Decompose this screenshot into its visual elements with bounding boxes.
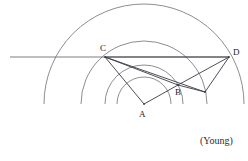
concentric-arc-group bbox=[44, 4, 244, 104]
ray-segment-group bbox=[105, 57, 229, 104]
ray-segment-b-d bbox=[178, 57, 229, 85]
ray-segment-a-b bbox=[144, 85, 178, 104]
ray-segment-b-e bbox=[178, 85, 205, 92]
vertex-dot-b bbox=[177, 84, 179, 86]
figure-canvas: A B C D (Young) bbox=[0, 0, 248, 161]
wavefront-arc-1 bbox=[44, 4, 244, 104]
vertex-dot-d bbox=[228, 56, 230, 58]
vertex-label-b: B bbox=[175, 88, 181, 97]
attribution-caption: (Young) bbox=[200, 136, 233, 146]
vertex-label-d: D bbox=[233, 48, 240, 57]
vertex-dot-a bbox=[143, 103, 145, 105]
vertex-label-a: A bbox=[139, 110, 146, 119]
ray-segment-e-d bbox=[205, 57, 229, 92]
vertex-label-c: C bbox=[100, 44, 106, 53]
vertex-dot-e bbox=[204, 91, 206, 93]
vertex-dot-c bbox=[104, 56, 106, 58]
